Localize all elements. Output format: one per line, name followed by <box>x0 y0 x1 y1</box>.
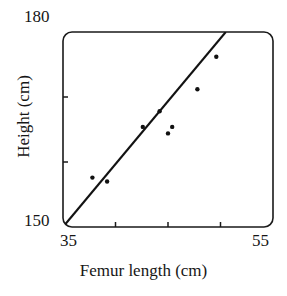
plot-frame <box>63 32 273 227</box>
data-point <box>141 125 145 129</box>
data-point <box>157 109 161 113</box>
data-point <box>105 179 109 183</box>
data-point <box>195 87 199 91</box>
scatter-plot-figure: 180 150 35 55 Height (cm) Femur length (… <box>0 0 287 296</box>
data-point <box>170 125 174 129</box>
plot-canvas <box>0 0 287 296</box>
data-point <box>214 55 218 59</box>
regression-line <box>63 32 226 227</box>
data-point <box>90 175 94 179</box>
regression-line-group <box>63 32 226 227</box>
axis-tick-marks <box>63 97 221 227</box>
data-point <box>166 131 170 135</box>
